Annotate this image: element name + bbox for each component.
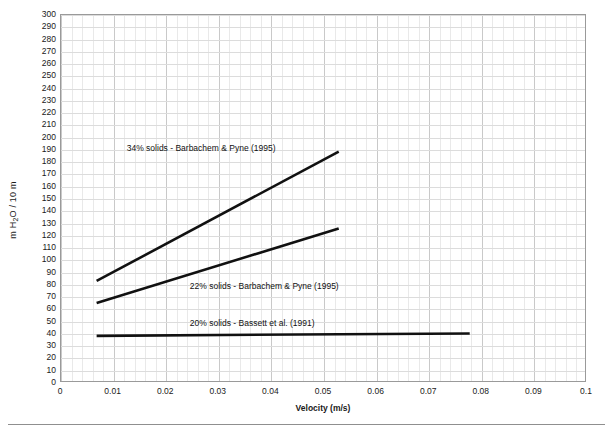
- y-axis-title-subscript: 2: [12, 217, 19, 221]
- y-tick-label: 190: [32, 144, 56, 153]
- y-tick-label: 70: [32, 292, 56, 301]
- y-axis-tick-labels: 0102030405060708090100110120130140150160…: [32, 14, 56, 382]
- y-tick-label: 220: [32, 108, 56, 117]
- y-tick-label: 110: [32, 243, 56, 252]
- y-axis-title-post: O / 10 m: [8, 181, 18, 217]
- series-line: [97, 152, 339, 281]
- y-tick-label: 90: [32, 267, 56, 276]
- y-tick-label: 270: [32, 46, 56, 55]
- series-line: [97, 333, 470, 335]
- x-tick-label: 0.07: [420, 386, 437, 396]
- y-tick-label: 60: [32, 304, 56, 313]
- y-tick-label: 50: [32, 316, 56, 325]
- y-tick-label: 10: [32, 365, 56, 374]
- x-axis-title: Velocity (m/s): [60, 403, 586, 413]
- y-axis-title: m H2O / 10 m: [8, 150, 22, 270]
- y-tick-label: 280: [32, 34, 56, 43]
- x-tick-label: 0.08: [473, 386, 490, 396]
- y-tick-label: 300: [32, 10, 56, 19]
- y-tick-label: 200: [32, 132, 56, 141]
- y-tick-label: 120: [32, 230, 56, 239]
- y-tick-label: 20: [32, 353, 56, 362]
- y-tick-label: 240: [32, 83, 56, 92]
- series-annotation-label: 34% solids - Barbachem & Pyne (1995): [127, 143, 276, 153]
- x-tick-label: 0.03: [210, 386, 227, 396]
- x-tick-label: 0.02: [157, 386, 174, 396]
- series-annotation-label: 22% solids - Barbachem & Pyne (1995): [190, 281, 339, 291]
- y-axis-title-pre: m H: [8, 222, 18, 239]
- y-tick-label: 160: [32, 181, 56, 190]
- x-tick-label: 0: [58, 386, 63, 396]
- y-tick-label: 140: [32, 206, 56, 215]
- x-tick-label: 0.1: [580, 386, 592, 396]
- y-tick-label: 130: [32, 218, 56, 227]
- figure: m H2O / 10 m 010203040506070809010011012…: [0, 0, 613, 437]
- caption-divider: [8, 424, 605, 425]
- y-tick-label: 250: [32, 71, 56, 80]
- x-tick-label: 0.06: [367, 386, 384, 396]
- x-axis-tick-labels: 00.010.020.030.040.050.060.070.080.090.1: [60, 386, 586, 398]
- x-tick-label: 0.05: [315, 386, 332, 396]
- y-tick-label: 80: [32, 279, 56, 288]
- y-tick-label: 0: [32, 378, 56, 387]
- series-line: [97, 229, 339, 303]
- y-tick-label: 30: [32, 341, 56, 350]
- y-tick-label: 100: [32, 255, 56, 264]
- y-tick-label: 260: [32, 59, 56, 68]
- y-tick-label: 210: [32, 120, 56, 129]
- y-tick-label: 150: [32, 194, 56, 203]
- y-tick-label: 230: [32, 95, 56, 104]
- y-tick-label: 40: [32, 328, 56, 337]
- series-annotation-label: 20% solids - Bassett et al. (1991): [190, 318, 315, 328]
- caption-text: [8, 429, 605, 437]
- y-tick-label: 290: [32, 22, 56, 31]
- plot-area: 34% solids - Barbachem & Pyne (1995)22% …: [60, 14, 586, 382]
- x-tick-label: 0.04: [262, 386, 279, 396]
- x-tick-label: 0.01: [104, 386, 121, 396]
- y-tick-label: 170: [32, 169, 56, 178]
- x-tick-label: 0.09: [525, 386, 542, 396]
- series-lines: [61, 15, 585, 381]
- y-tick-label: 180: [32, 157, 56, 166]
